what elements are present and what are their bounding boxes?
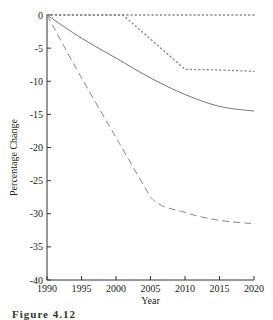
x-tick-label: 2015 xyxy=(210,283,230,294)
y-tick-label: -10 xyxy=(30,76,43,87)
y-tick-label: -15 xyxy=(30,109,43,120)
y-axis-title: Percentage Change xyxy=(8,118,19,195)
x-tick-label: 1995 xyxy=(72,283,92,294)
x-axis-title: Year xyxy=(141,295,160,306)
x-tick-label: 2010 xyxy=(175,283,195,294)
y-tick-label: -20 xyxy=(30,142,43,153)
axes xyxy=(47,15,254,280)
axis-labels: 0-5-10-15-20-25-30-35-401990199520002005… xyxy=(8,10,264,307)
y-tick-label: 0 xyxy=(38,10,43,21)
y-tick-label: -35 xyxy=(30,241,43,252)
y-tick-label: -30 xyxy=(30,208,43,219)
y-tick-label: -5 xyxy=(35,43,43,54)
series-dotted-lower-line xyxy=(47,15,254,71)
y-tick-label: -25 xyxy=(30,175,43,186)
series-lines xyxy=(47,15,254,224)
series-solid-line xyxy=(47,15,254,111)
figure-caption: Figure 4.12 xyxy=(12,308,76,320)
series-dashed-line xyxy=(47,15,254,224)
x-tick-label: 2005 xyxy=(141,283,161,294)
x-tick-label: 2020 xyxy=(244,283,264,294)
x-tick-label: 2000 xyxy=(106,283,126,294)
x-tick-label: 1990 xyxy=(37,283,57,294)
